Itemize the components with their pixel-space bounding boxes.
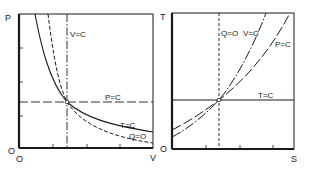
pv-origin-y-label: O bbox=[8, 146, 15, 156]
pv-diagram: P V O O V=C P=C T=C Q=O bbox=[5, 13, 156, 164]
ts-x-axis-label: S bbox=[291, 154, 297, 164]
ts-label-adiabat: Q=O bbox=[221, 29, 238, 38]
ts-label-isobar: P=C bbox=[275, 40, 291, 49]
pv-x-axis-label: V bbox=[150, 153, 156, 163]
pv-y-axis-label: P bbox=[5, 13, 11, 23]
pv-origin-x-label: O bbox=[16, 154, 23, 164]
ts-y-axis-label: T bbox=[160, 12, 166, 22]
ts-label-isochore: V=C bbox=[243, 29, 259, 38]
pv-label-isochore: V=C bbox=[70, 30, 86, 39]
ts-label-isotherm: T=C bbox=[258, 91, 274, 100]
pv-adiabat-curve bbox=[48, 14, 153, 143]
ts-state-point bbox=[217, 98, 221, 102]
ts-diagram: T S O Q=O V=C P=C T=C bbox=[160, 12, 297, 164]
pv-label-isobar: P=C bbox=[105, 93, 121, 102]
pv-isotherm-curve bbox=[35, 14, 153, 132]
ts-origin-label: O bbox=[160, 144, 167, 154]
pv-label-adiabat: Q=O bbox=[129, 132, 146, 141]
thermo-diagrams: P V O O V=C P=C T=C Q=O T S O Q=O V=C P=… bbox=[0, 0, 316, 169]
pv-label-isotherm: T=C bbox=[120, 121, 136, 130]
pv-state-point bbox=[65, 100, 69, 104]
